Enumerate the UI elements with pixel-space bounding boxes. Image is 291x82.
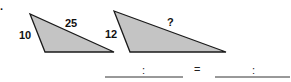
side-label-25: 25 — [65, 17, 77, 29]
bullet: . — [0, 0, 3, 12]
side-label-12: 12 — [105, 28, 117, 40]
side-label-unknown: ? — [167, 16, 174, 28]
equals-sign: = — [194, 63, 200, 75]
triangle-right: 12 ? — [105, 11, 226, 52]
ratio-colon-right: : — [252, 64, 255, 76]
side-label-10: 10 — [19, 29, 31, 41]
triangle-left: 10 25 — [19, 14, 114, 52]
ratio-colon-left: : — [142, 64, 145, 76]
proportion-answer: : = : — [105, 63, 290, 77]
similar-triangles-diagram: . 10 25 12 ? : = : — [0, 0, 291, 82]
